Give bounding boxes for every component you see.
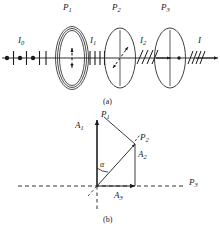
- axis-p1-tilt-line: [104, 117, 135, 144]
- label-p1-vector: P1: [101, 110, 110, 119]
- beam-i-out-slant-marks: [188, 51, 205, 64]
- label-p2-vector: P2: [140, 133, 149, 142]
- label-a1: A1: [75, 121, 84, 130]
- label-p3-top: P3: [161, 3, 170, 12]
- axis-p2-dashed-continuation: [88, 186, 97, 196]
- label-p2-top: P2: [112, 3, 121, 12]
- label-i2: I2: [140, 36, 146, 45]
- label-p3-vector: P3: [189, 178, 198, 187]
- label-a2: A2: [138, 150, 147, 159]
- caption-panel-b: (b): [103, 215, 112, 224]
- caption-panel-a: (a): [103, 97, 112, 106]
- panel-a-optical-axis: [2, 27, 218, 90]
- label-p1-top: P1: [63, 3, 72, 12]
- label-i1: I1: [90, 36, 96, 45]
- label-i0: I0: [18, 36, 24, 45]
- p3-axis-dot: [177, 56, 180, 59]
- label-a3: A3: [114, 191, 123, 200]
- label-i-out: I: [198, 36, 201, 45]
- label-angle-alpha: α: [100, 160, 104, 169]
- figure-root: P1 P2 P3 I0 I1 I2 I (a) P1 P2 P3 A1 A2 A…: [0, 0, 220, 229]
- figure-svg: [0, 0, 220, 229]
